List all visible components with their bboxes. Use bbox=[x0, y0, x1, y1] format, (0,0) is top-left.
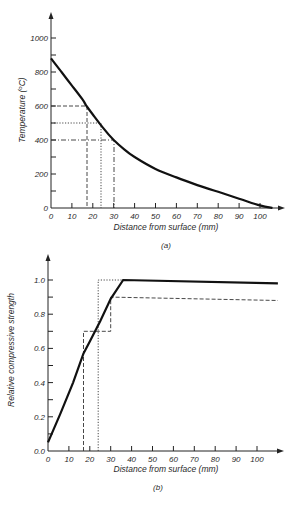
x-tick-label: 10 bbox=[64, 455, 73, 464]
x-ticks-a: 0102030405060708090100 bbox=[49, 203, 267, 221]
strength-dashed-step bbox=[84, 297, 278, 451]
x-axis-title-b: Distance from surface (mm) bbox=[114, 464, 219, 474]
x-tick-label: 30 bbox=[109, 212, 118, 221]
panel-label-a: (a) bbox=[161, 241, 171, 250]
y-tick-label: 200 bbox=[34, 170, 49, 179]
panel-label-b: (b) bbox=[153, 483, 163, 492]
reference-lines-a bbox=[51, 106, 114, 208]
chart-a: 02004006008001000 0102030405060708090100… bbox=[17, 12, 285, 250]
x-tick-label: 90 bbox=[232, 455, 241, 464]
ref-400-dashdot bbox=[51, 140, 114, 208]
figure: 02004006008001000 0102030405060708090100… bbox=[0, 0, 302, 505]
y-tick-label: 1.0 bbox=[34, 276, 46, 285]
chart-b: 0.00.20.40.60.81.0 010203040506070809010… bbox=[6, 254, 284, 492]
x-tick-label: 60 bbox=[169, 455, 178, 464]
x-axis-title-a: Distance from surface (mm) bbox=[114, 222, 219, 232]
x-tick-label: 20 bbox=[87, 212, 97, 221]
strength-dotted-step bbox=[98, 280, 123, 451]
y-tick-label: 400 bbox=[35, 136, 49, 145]
x-tick-label: 50 bbox=[151, 212, 160, 221]
temperature-curve bbox=[51, 58, 273, 208]
x-tick-label: 0 bbox=[49, 212, 54, 221]
x-tick-label: 80 bbox=[211, 455, 220, 464]
x-tick-label: 70 bbox=[190, 455, 199, 464]
y-axis-title-a: Temperature (oC) bbox=[17, 77, 27, 143]
x-tick-label: 90 bbox=[235, 212, 244, 221]
strength-curve bbox=[48, 280, 278, 442]
x-tick-label: 0 bbox=[46, 455, 51, 464]
x-tick-label: 70 bbox=[193, 212, 202, 221]
x-tick-label: 40 bbox=[130, 212, 139, 221]
y-tick-label: 0.2 bbox=[34, 413, 46, 422]
x-tick-label: 20 bbox=[84, 455, 94, 464]
ref-500-dotted bbox=[51, 123, 101, 208]
y-tick-label: 0.0 bbox=[34, 447, 46, 456]
y-tick-label: 800 bbox=[35, 68, 49, 77]
ref-600-dashed bbox=[51, 106, 87, 208]
y-axis-title-b: Relative compressive strength bbox=[6, 293, 16, 407]
x-tick-label: 10 bbox=[67, 212, 76, 221]
x-tick-label: 40 bbox=[127, 455, 136, 464]
x-tick-label: 30 bbox=[106, 455, 115, 464]
y-ticks-b: 0.00.20.40.60.81.0 bbox=[34, 276, 53, 456]
y-tick-label: 1000 bbox=[30, 34, 48, 43]
x-ticks-b: 0102030405060708090100 bbox=[46, 446, 264, 464]
y-axis-arrow-icon bbox=[46, 254, 51, 261]
y-tick-label: 0.4 bbox=[34, 379, 46, 388]
x-tick-label: 100 bbox=[253, 212, 267, 221]
y-tick-label: 0.8 bbox=[34, 310, 46, 319]
x-axis-arrow-icon bbox=[278, 206, 285, 211]
x-tick-label: 80 bbox=[214, 212, 223, 221]
y-tick-label: 0.6 bbox=[34, 344, 46, 353]
y-axis-arrow-icon bbox=[49, 12, 54, 19]
y-tick-label: 600 bbox=[35, 102, 49, 111]
x-tick-label: 100 bbox=[250, 455, 264, 464]
x-tick-label: 50 bbox=[148, 455, 157, 464]
x-tick-label: 60 bbox=[172, 212, 181, 221]
x-axis-arrow-icon bbox=[277, 449, 284, 454]
